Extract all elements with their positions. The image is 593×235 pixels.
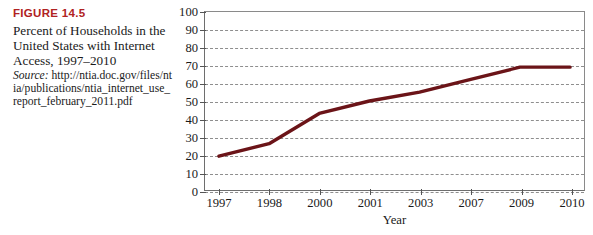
series-line-internet-access [219,67,570,156]
x-tick-label: 2009 [509,196,534,211]
y-tick-label: 70 [185,59,198,74]
data-series-layer [205,12,584,190]
figure-source: Source: http://ntia.doc.gov/files/ntia/p… [13,69,173,109]
figure-title: Percent of Households in the United Stat… [13,23,173,69]
x-tick-label: 2003 [408,196,433,211]
y-tick-mark [200,192,206,193]
y-tick-label: 50 [185,95,198,110]
source-label: Source: [13,69,49,82]
figure-number-label: FIGURE 14.5 [13,7,173,19]
y-tick-label: 60 [185,77,198,92]
y-tick-label: 80 [185,41,198,56]
y-tick-label: 30 [185,131,198,146]
x-tick-label: 2007 [459,196,484,211]
line-chart: 0102030405060708090100 19971998200020012… [186,0,593,235]
x-tick-label: 2010 [559,196,584,211]
x-tick-label: 2000 [307,196,332,211]
y-tick-label: 20 [185,149,198,164]
y-tick-label: 0 [192,185,198,200]
plot-area: 0102030405060708090100 19971998200020012… [204,11,585,191]
y-tick-label: 90 [185,23,198,38]
gridline [205,192,584,193]
y-tick-label: 10 [185,167,198,182]
figure-caption: FIGURE 14.5 Percent of Households in the… [13,7,173,109]
x-axis-title: Year [204,213,585,228]
x-tick-label: 1997 [206,196,231,211]
y-tick-label: 100 [179,5,198,20]
x-tick-label: 2001 [358,196,383,211]
x-tick-label: 1998 [257,196,282,211]
y-tick-label: 40 [185,113,198,128]
